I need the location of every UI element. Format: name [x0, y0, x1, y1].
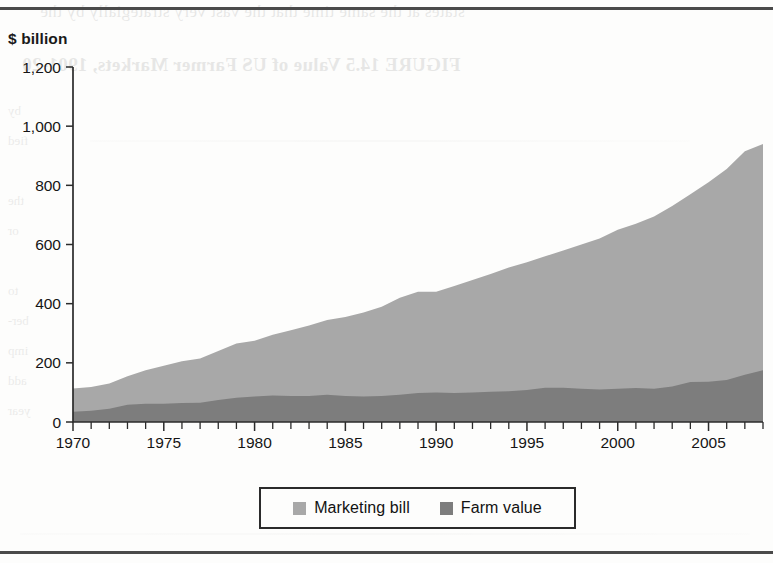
y-axis-ticks: 02004006008001,0001,200: [22, 59, 73, 431]
chart-legend: Marketing bill Farm value: [259, 487, 576, 529]
x-tick-label: 1970: [56, 434, 91, 451]
y-tick-label: 1,200: [22, 59, 61, 76]
x-tick-label: 1985: [328, 434, 362, 451]
x-tick-label: 1990: [419, 434, 454, 451]
legend-entry-farm-value: Farm value: [440, 499, 542, 517]
chart-areas: [73, 144, 763, 422]
x-tick-label: 1975: [147, 434, 181, 451]
marketing-bill-swatch: [293, 502, 306, 515]
horizontal-rule-bottom: [0, 551, 773, 554]
y-tick-label: 200: [35, 354, 61, 371]
farm-value-swatch: [440, 502, 453, 515]
legend-entry-marketing-bill: Marketing bill: [293, 499, 410, 517]
legend-label-marketing-bill: Marketing bill: [314, 499, 410, 517]
y-tick-label: 0: [52, 414, 61, 431]
figure-page: states at the same time that the vast ve…: [0, 0, 773, 563]
x-tick-label: 1980: [237, 434, 272, 451]
x-axis-ticks: 19701975198019851990199520002005: [56, 422, 763, 451]
x-tick-label: 2005: [691, 434, 725, 451]
area-marketing-bill: [73, 144, 763, 422]
x-tick-label: 2000: [600, 434, 635, 451]
x-tick-label: 1995: [510, 434, 544, 451]
area-chart: 02004006008001,0001,200 1970197519801985…: [0, 0, 773, 470]
legend-label-farm-value: Farm value: [461, 499, 542, 517]
y-tick-label: 800: [35, 177, 61, 194]
y-tick-label: 400: [35, 295, 61, 312]
y-tick-label: 600: [35, 236, 61, 253]
y-tick-label: 1,000: [22, 118, 61, 135]
bleed-smudge-three: [20, 533, 750, 535]
